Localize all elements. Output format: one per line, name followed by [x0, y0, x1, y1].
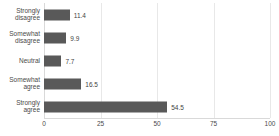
- bar-track: 16.5: [44, 72, 270, 95]
- bar-value-label: 11.4: [74, 11, 86, 18]
- x-tick-label-100: 100: [265, 120, 276, 127]
- x-tick-label-75: 75: [210, 120, 217, 127]
- bar-row: Strongly disagree11.4: [0, 3, 279, 26]
- bar[interactable]: [44, 101, 167, 112]
- bar-track: 9.9: [44, 26, 270, 49]
- bar-row: Strongly agree54.5: [0, 95, 279, 118]
- bar-track: 11.4: [44, 3, 270, 26]
- category-label: Strongly disagree: [0, 7, 40, 22]
- category-label: Somewhat disagree: [0, 30, 40, 45]
- bar-track: 54.5: [44, 95, 270, 118]
- category-label: Neutral: [0, 57, 40, 65]
- bar-value-label: 16.5: [85, 80, 98, 87]
- bar-chart: Strongly disagree11.4Somewhat disagree9.…: [0, 0, 279, 136]
- bar-row: Neutral7.7: [0, 49, 279, 72]
- bar-value-label: 7.7: [65, 57, 74, 64]
- x-tick-label-25: 25: [97, 120, 104, 127]
- x-tick-label-50: 50: [153, 120, 160, 127]
- x-tick-label-0: 0: [42, 120, 46, 127]
- bar[interactable]: [44, 32, 66, 43]
- category-label: Somewhat agree: [0, 76, 40, 91]
- bar-row: Somewhat disagree9.9: [0, 26, 279, 49]
- bar-track: 7.7: [44, 49, 270, 72]
- x-axis-line: [44, 118, 270, 119]
- bar-row: Somewhat agree16.5: [0, 72, 279, 95]
- bar-value-label: 9.9: [70, 34, 79, 41]
- bar[interactable]: [44, 9, 70, 20]
- bar[interactable]: [44, 78, 81, 89]
- x-axis-tick-labels: 0255075100: [44, 120, 270, 134]
- category-label: Strongly agree: [0, 99, 40, 114]
- bar-value-label: 54.5: [171, 103, 184, 110]
- bar-rows: Strongly disagree11.4Somewhat disagree9.…: [0, 3, 279, 118]
- bar[interactable]: [44, 55, 61, 66]
